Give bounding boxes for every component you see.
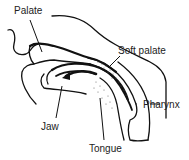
upper-lip-outline [8, 30, 38, 55]
jaw-label: Jaw [41, 122, 59, 132]
jaw-leader [56, 86, 62, 118]
pharynx-label: Pharynx [143, 100, 180, 110]
tongue-label: Tongue [89, 144, 122, 154]
tongue-leader [100, 98, 104, 140]
hard-palate [30, 44, 116, 72]
soft-palate-label: Soft palate [118, 46, 166, 56]
swallowing-anatomy-diagram: Palate Soft palate Pharynx Jaw Tongue [0, 0, 189, 160]
soft-palate-inner [90, 64, 132, 110]
lower-lip [22, 64, 36, 104]
palate-leader [30, 20, 42, 52]
jaw-lower-contour [47, 70, 52, 84]
anatomy-drawing [0, 0, 189, 160]
palate-label: Palate [14, 6, 42, 16]
